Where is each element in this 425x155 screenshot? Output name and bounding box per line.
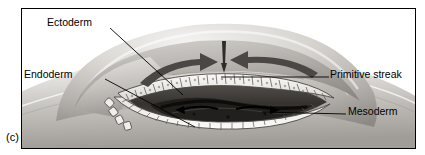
label-endoderm: Endoderm	[24, 69, 72, 80]
label-ectoderm: Ectoderm	[47, 17, 92, 28]
figure-part-label: (c)	[6, 131, 19, 143]
figure-container: (c)	[0, 0, 425, 155]
label-primitive-streak: Primitive streak	[330, 69, 402, 80]
label-mesoderm: Mesoderm	[348, 106, 398, 117]
